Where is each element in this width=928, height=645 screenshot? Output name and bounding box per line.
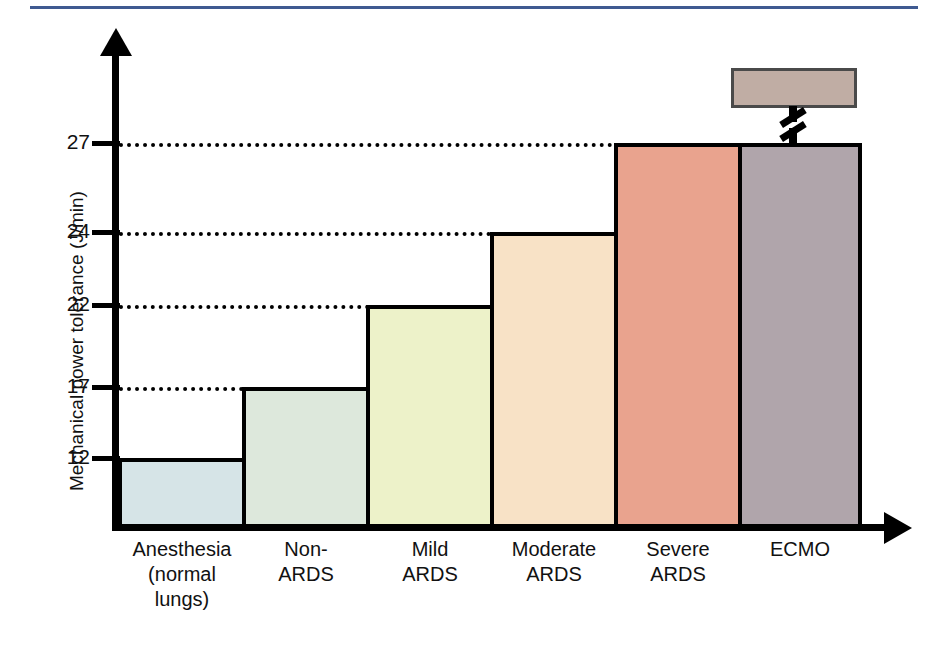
x-label-line: ARDS [490,562,618,587]
axis-break-box[interactable] [731,68,857,108]
bar-severe-ards[interactable] [614,143,742,528]
x-label-mild-ards: Mild ARDS [366,537,494,587]
bar-ecmo[interactable] [738,143,862,528]
x-label-line: Mild [366,537,494,562]
x-label-moderate-ards: Moderate ARDS [490,537,618,587]
x-label-line: ECMO [738,537,862,562]
x-label-non-ards: Non- ARDS [242,537,370,587]
x-label-line: Moderate [490,537,618,562]
x-label-anesthesia: Anesthesia (normal lungs) [118,537,246,612]
axis-break-stem-lower [789,128,797,146]
bar-chart: Mechanical power tolerance (J/min) 27 24… [0,0,928,645]
x-label-line: Non- [242,537,370,562]
bar-mild-ards[interactable] [366,305,494,528]
x-label-ecmo: ECMO [738,537,862,562]
bar-moderate-ards[interactable] [490,232,618,528]
bar-non-ards[interactable] [242,387,370,528]
x-label-line: ARDS [366,562,494,587]
x-label-line: (normal [118,562,246,587]
chart-page: Mechanical power tolerance (J/min) 27 24… [0,0,928,645]
x-label-line: lungs) [118,587,246,612]
x-label-line: Anesthesia [118,537,246,562]
bar-anesthesia[interactable] [118,458,246,528]
x-label-line: ARDS [614,562,742,587]
x-label-severe-ards: Severe ARDS [614,537,742,587]
x-label-line: ARDS [242,562,370,587]
x-label-line: Severe [614,537,742,562]
